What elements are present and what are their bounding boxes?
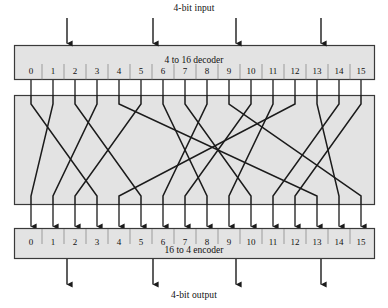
decoder-port-0: 0	[29, 66, 34, 76]
input-caption: 4-bit input	[0, 3, 388, 13]
decoder-port-5: 5	[139, 66, 144, 76]
encoder-port-5: 5	[139, 237, 144, 247]
encoder-port-12: 12	[291, 237, 300, 247]
decoder-port-13: 13	[313, 66, 322, 76]
encoder-port-13: 13	[313, 237, 322, 247]
input-arrows	[67, 18, 321, 44]
encoder-port-6: 6	[161, 237, 166, 247]
decoder-port-1: 1	[51, 66, 56, 76]
encoder-port-1: 1	[51, 237, 56, 247]
decoder-label: 4 to 16 decoder	[0, 55, 388, 65]
decoder-port-12: 12	[291, 66, 300, 76]
encoder-input-stubs	[31, 205, 361, 227]
decoder-port-14: 14	[335, 66, 344, 76]
encoder-port-7: 7	[183, 237, 188, 247]
decoder-port-11: 11	[269, 66, 278, 76]
encoder-port-3: 3	[95, 237, 100, 247]
encoder-label: 16 to 4 encoder	[0, 245, 388, 255]
encoder-port-0: 0	[29, 237, 34, 247]
diagram-canvas: 4-bit input 4-bit output 4 to 16 decoder…	[0, 0, 388, 308]
encoder-port-2: 2	[73, 237, 78, 247]
decoder-port-8: 8	[205, 66, 210, 76]
output-caption: 4-bit output	[0, 290, 388, 300]
encoder-port-9: 9	[227, 237, 232, 247]
encoder-port-4: 4	[117, 237, 122, 247]
decoder-port-3: 3	[95, 66, 100, 76]
encoder-port-14: 14	[335, 237, 344, 247]
decoder-port-10: 10	[247, 66, 256, 76]
encoder-port-8: 8	[205, 237, 210, 247]
decoder-port-9: 9	[227, 66, 232, 76]
encoder-port-11: 11	[269, 237, 278, 247]
decoder-port-15: 15	[357, 66, 366, 76]
decoder-port-4: 4	[117, 66, 122, 76]
output-arrows	[67, 259, 321, 285]
encoder-port-15: 15	[357, 237, 366, 247]
decoder-port-2: 2	[73, 66, 78, 76]
permutation-box	[15, 96, 375, 205]
decoder-port-6: 6	[161, 66, 166, 76]
decoder-port-7: 7	[183, 66, 188, 76]
encoder-port-10: 10	[247, 237, 256, 247]
diagram-svg	[0, 0, 388, 308]
decoder-output-stubs	[31, 80, 361, 95]
